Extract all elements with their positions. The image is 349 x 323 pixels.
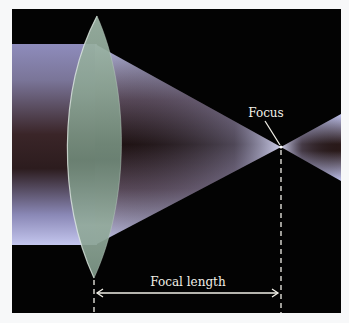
focus-point [279, 145, 282, 148]
focal-length-label: Focal length [150, 275, 226, 289]
focus-label: Focus [248, 106, 284, 120]
lens-diagram: Focus Focal length [0, 0, 349, 323]
